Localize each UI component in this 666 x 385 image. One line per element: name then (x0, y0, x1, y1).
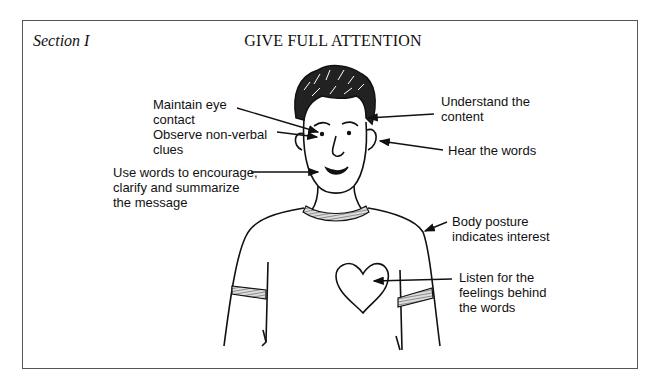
right-sleeve-band-icon (398, 288, 433, 307)
arrow-understand (368, 114, 434, 118)
label-nonverbal: Observe non-verbal clues (153, 127, 267, 157)
left-sleeve-band-icon (232, 286, 266, 299)
label-understand: Understand the content (441, 94, 530, 124)
label-posture: Body posture indicates interest (452, 214, 550, 244)
hair-icon (295, 66, 375, 124)
heart-icon (336, 264, 388, 313)
shirt-icon (224, 208, 440, 350)
face-icon (295, 118, 376, 210)
arrow-hear (380, 141, 443, 150)
label-eye-contact: Maintain eye contact (153, 97, 227, 127)
label-hear: Hear the words (448, 143, 536, 158)
label-encourage: Use words to encourage, clarify and summ… (113, 165, 258, 210)
label-feelings: Listen for the feelings behind the words (459, 270, 546, 315)
annotation-arrows (237, 108, 452, 281)
listener-illustration (0, 0, 666, 385)
arrow-posture (425, 222, 447, 231)
